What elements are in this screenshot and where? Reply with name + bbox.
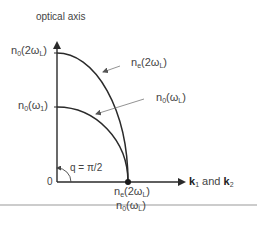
x-label-upper: ne(2ωL) bbox=[114, 186, 150, 198]
curve-label-inner: n0(ωL) bbox=[156, 92, 186, 104]
curve-label-outer: ne(2ωL) bbox=[131, 57, 167, 69]
y-label-top: n0(2ωL) bbox=[11, 45, 47, 57]
angle-label: q = π/2 bbox=[70, 163, 102, 173]
origin-label: 0 bbox=[47, 177, 53, 187]
y-label-middle: n0(ω1) bbox=[18, 100, 48, 112]
k-axis-label: k1 and k2 bbox=[189, 176, 234, 188]
optical-axis-title: optical axis bbox=[36, 12, 85, 22]
x-label-lower: n0(ωL) bbox=[116, 200, 146, 212]
pointer-inner bbox=[96, 99, 144, 114]
pointer-outer bbox=[103, 66, 120, 72]
angle-arc bbox=[57, 168, 71, 182]
